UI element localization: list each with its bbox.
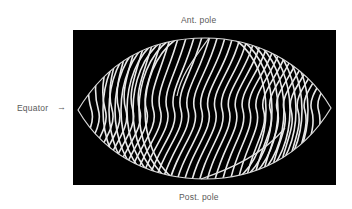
fiber-line: [182, 30, 235, 185]
seam-posterior: [201, 128, 285, 179]
fiber-line: [133, 40, 163, 180]
label-equator: Equator: [17, 103, 48, 113]
label-posterior-pole: Post. pole: [179, 192, 219, 202]
fiber-line: [167, 30, 220, 185]
arrow-right-icon: →: [57, 102, 66, 112]
label-anterior-pole: Ant. pole: [181, 15, 216, 25]
lemon-outline: [78, 38, 331, 179]
fiber-line: [309, 30, 336, 185]
figure-panel: [73, 30, 336, 185]
fiber-diagram: [73, 30, 336, 185]
fiber-line: [73, 30, 101, 185]
fiber-line: [160, 30, 213, 185]
fiber-line: [175, 30, 228, 185]
fiber-line: [293, 30, 335, 185]
